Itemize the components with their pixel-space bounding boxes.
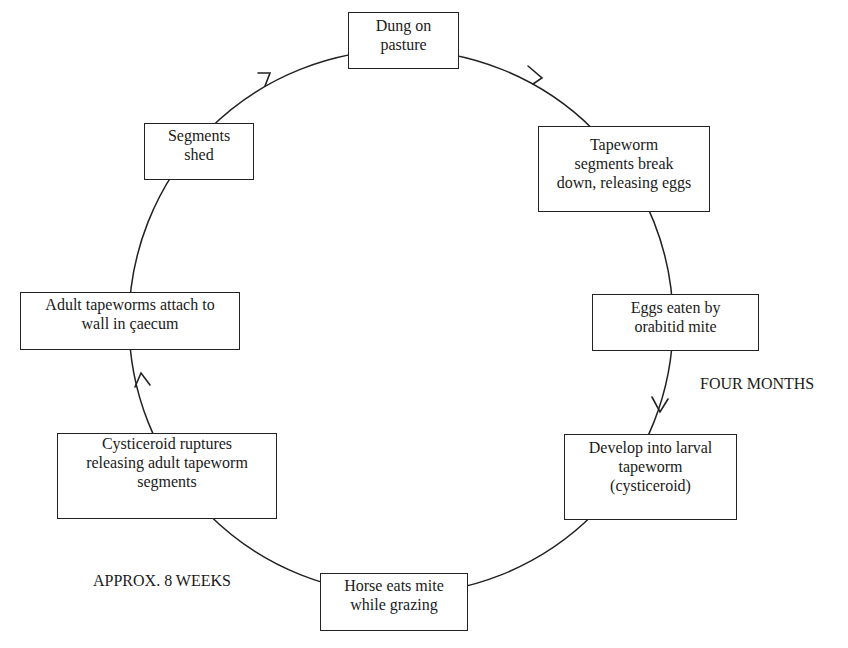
stage-text: Horse eats mite while grazing — [344, 576, 444, 614]
stage-text: Eggs eaten by orabitid mite — [631, 298, 721, 336]
stage-eggs-eaten-by-mite: Eggs eaten by orabitid mite — [592, 294, 759, 351]
approx-8-weeks-label: APPROX. 8 WEEKS — [93, 571, 231, 590]
stage-adult-attach: Adult tapeworms attach to wall in çaecum — [20, 292, 240, 350]
stage-text: Segments shed — [168, 126, 230, 164]
stage-horse-eats-mite: Horse eats mite while grazing — [320, 573, 468, 631]
stage-text: Adult tapeworms attach to wall in çaecum — [45, 295, 214, 333]
stage-text: Develop into larval tapeworm (cysticeroi… — [589, 438, 713, 495]
arrow-icon-top-right — [528, 66, 542, 84]
stage-segments-break-down: Tapeworm segments break down, releasing … — [538, 126, 710, 212]
arrow-icon-left — [135, 373, 150, 387]
stage-dung-on-pasture: Dung on pasture — [348, 12, 459, 69]
stage-cysticeroid-ruptures: Cysticeroid ruptures releasing adult tap… — [57, 433, 277, 519]
stage-text: Tapeworm segments break down, releasing … — [557, 135, 692, 192]
stage-text: Dung on pasture — [376, 16, 432, 54]
stage-develop-larval: Develop into larval tapeworm (cysticeroi… — [564, 434, 737, 520]
stage-segments-shed: Segments shed — [144, 123, 254, 180]
stage-text: Cysticeroid ruptures releasing adult tap… — [86, 434, 248, 491]
four-months-label: FOUR MONTHS — [700, 374, 814, 393]
